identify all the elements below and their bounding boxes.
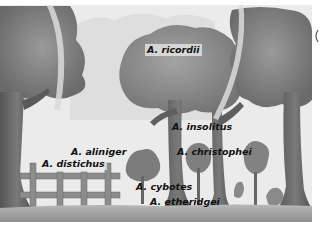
label-a-insolitus: A. insolitus — [170, 121, 234, 133]
label-a-distichus: A. distichus — [40, 158, 107, 170]
habitat-illustration: A. ricordii A. insolitus A. aliniger A. … — [0, 0, 324, 227]
label-a-ricordii: A. ricordii — [145, 44, 202, 56]
label-a-cybotes: A. cybotes — [134, 181, 194, 193]
label-a-christophei: A. christophei — [175, 146, 254, 158]
label-a-etheridgei: A. etheridgei — [148, 196, 222, 208]
label-a-aliniger: A. aliniger — [69, 146, 128, 158]
